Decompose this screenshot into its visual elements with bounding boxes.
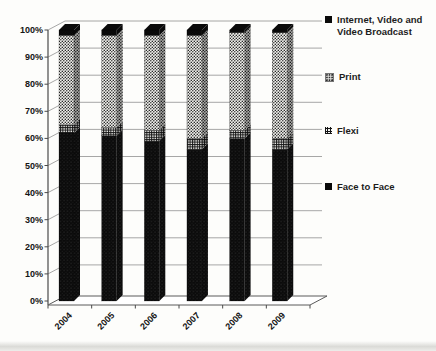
x-axis-label: 2004 [53,310,74,331]
bar-segment-print [102,35,117,127]
bar-segment-print [272,33,287,139]
legend-item-internet: Internet, Video and Video Broadcast [325,14,435,39]
x-axis-label: 2005 [95,310,116,331]
y-axis-label: 70% [25,106,43,116]
bar-segment-face [102,136,117,301]
y-axis-label: 0% [30,296,43,306]
bar-segment-flexi [230,130,245,138]
bar-segment-face [230,138,245,301]
bar-side-face [245,132,251,301]
scan-artifact-band [0,341,436,351]
bar-side-shade [74,29,80,124]
internet-series-swatch-icon [325,16,332,23]
bar-side-shade [117,29,123,127]
bar-side-shade [159,29,165,130]
y-axis-label: 60% [25,133,43,143]
bar-segment-internet [187,30,202,35]
plot-area: 0%10%20%30%40%50%60%70%80%90%100%2004200… [20,21,327,332]
bar-segment-internet [272,30,287,33]
bar-segment-face [59,133,74,301]
legend-label: Flexi [337,125,359,137]
bar-side-shade [202,29,208,138]
bar-segment-flexi [272,138,287,149]
y-axis-label: 90% [25,52,43,62]
flexi-series-swatch-icon [325,127,332,134]
y-axis-label: 100% [20,25,43,35]
x-axis-label: 2008 [223,310,244,331]
face-to-face-series-swatch-icon [325,183,332,190]
bar-segment-print [59,35,74,124]
bar-segment-flexi [144,130,159,141]
bar-segment-internet [59,30,74,35]
bar-segment-flexi [102,128,117,136]
bar-side-face [74,127,80,301]
y-axis-label: 30% [25,215,43,225]
bar-segment-face [187,149,202,301]
y-axis-label: 40% [25,188,43,198]
print-series-swatch-icon [325,73,334,82]
y-axis-label: 20% [25,242,43,252]
bar-segment-internet [102,30,117,35]
bar-side-shade [245,27,251,131]
legend-label: Face to Face [337,181,395,193]
legend-item-face: Face to Face [325,181,435,193]
bar-segment-print [230,33,245,131]
bar-segment-face [272,149,287,301]
chart-canvas: 0%10%20%30%40%50%60%70%80%90%100%2004200… [0,0,436,351]
x-axis-label: 2007 [181,310,202,331]
bar-segment-print [144,35,159,130]
y-axis-label: 80% [25,79,43,89]
legend-label: Internet, Video and Video Broadcast [337,14,435,39]
bar-side-face [287,143,293,301]
x-axis-label: 2009 [266,310,287,331]
bar-segment-flexi [59,125,74,133]
bar-segment-internet [230,30,245,33]
bar-side-face [117,130,123,301]
bar-side-face [159,135,165,301]
bar-side-face [202,143,208,301]
y-axis-label: 50% [25,161,43,171]
bar-segment-face [144,141,159,301]
x-axis-label: 2006 [138,310,159,331]
bar-segment-print [187,35,202,138]
y-axis-label: 10% [25,269,43,279]
legend-label: Print [339,71,361,83]
legend-item-flexi: Flexi [325,125,435,137]
bar-segment-internet [144,30,159,35]
legend-item-print: Print [325,71,435,83]
chart-legend: Internet, Video and Video Broadcast Prin… [325,14,435,214]
bar-side-shade [287,27,293,139]
bar-segment-flexi [187,138,202,149]
